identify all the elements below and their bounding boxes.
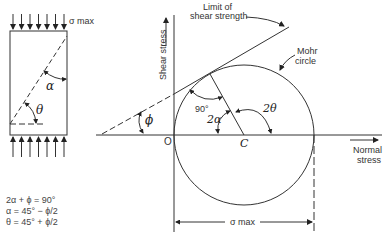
theta-arc xyxy=(25,103,36,123)
formula-block: 2α + ϕ = 90° α = 45° − ϕ/2 θ = 45° + ϕ/2 xyxy=(6,195,58,228)
specimen-theta-label: θ xyxy=(36,103,44,117)
specimen-load-label: σ max xyxy=(69,16,95,26)
limit-leader xyxy=(246,17,284,26)
two-alpha-label: 2α xyxy=(206,113,222,126)
right-angle-arc xyxy=(190,90,222,99)
shear-stress-label: Shear stress xyxy=(158,29,168,80)
phi-arc xyxy=(139,112,143,133)
failure-envelope xyxy=(174,27,289,94)
formula-line: 2α + ϕ = 90° xyxy=(6,195,58,206)
specimen-block xyxy=(10,31,67,135)
dimension-label: σ max xyxy=(230,217,256,227)
normal-stress-label-line1: Normal xyxy=(353,145,382,155)
formula-line: θ = 45° + ϕ/2 xyxy=(6,217,58,228)
bottom-load-arrows xyxy=(13,137,64,157)
mohr-diagram: σ max α θ Limit of shear strength Mohr c… xyxy=(0,0,391,240)
formula-line: α = 45° − ϕ/2 xyxy=(6,206,58,217)
center-label: C xyxy=(240,137,249,150)
specimen-alpha-label: α xyxy=(46,79,54,93)
mohr-label-line2: circle xyxy=(295,56,316,66)
failure-envelope-dashed xyxy=(102,94,174,134)
mohr-leader xyxy=(280,55,295,70)
specimen xyxy=(10,14,67,157)
alpha-arc xyxy=(44,71,66,79)
top-load-arrows xyxy=(13,14,64,29)
mohr-label-line1: Mohr xyxy=(297,46,318,56)
limit-label-line2: shear strength xyxy=(190,11,248,21)
two-theta-label: 2θ xyxy=(262,102,277,115)
normal-stress-label-line2: stress xyxy=(357,155,382,165)
phi-label: ϕ xyxy=(145,113,153,127)
origin-label: O xyxy=(164,136,172,147)
